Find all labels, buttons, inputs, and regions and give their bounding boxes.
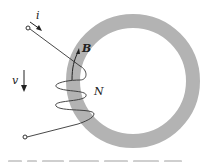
voltage-arrowhead-icon [21,85,27,92]
current-label: i [36,9,40,22]
lower-lead-wire [27,124,78,137]
current-arrowhead-icon [36,25,42,31]
flux-density-label: B [81,42,91,55]
toroidal-core [73,21,193,141]
turns-label: N [93,85,104,98]
upper-terminal [26,26,30,30]
lower-terminal [23,135,27,139]
upper-lead-wire [30,29,80,66]
voltage-label: v [12,74,19,87]
toroid-diagram: i B N v [0,0,212,167]
figure-caption-illegible [8,152,208,162]
